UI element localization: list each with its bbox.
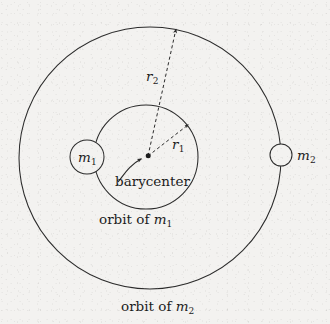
mass2-body-circle (270, 144, 292, 166)
inner-orbit-circle (94, 105, 198, 209)
orbit-diagram (0, 0, 330, 324)
mass1-label: m1 (78, 149, 97, 165)
radius2-label: r2 (146, 68, 158, 84)
barycenter-label: barycenter (115, 173, 190, 189)
orbit-of-mass1-label: orbit of m1 (99, 211, 172, 227)
barycenter-dot (146, 153, 151, 158)
orbit-of-mass2-label: orbit of m2 (121, 298, 194, 314)
mass2-label: m2 (297, 147, 316, 163)
outer-orbit-circle (19, 27, 281, 289)
radius1-label: r1 (172, 136, 184, 152)
